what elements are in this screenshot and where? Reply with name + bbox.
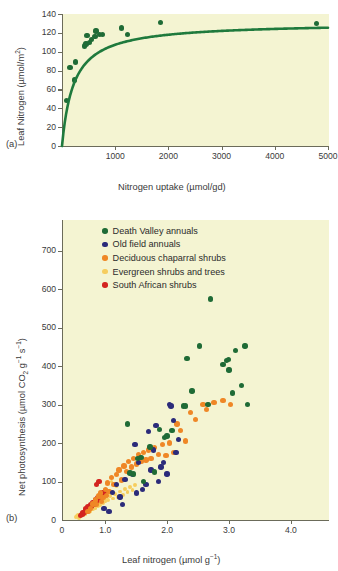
panel-b-data-point (131, 471, 136, 476)
panel-b-y-tick-mark (58, 482, 62, 483)
panel-b-x-tick-label: 2.0 (153, 525, 181, 535)
panel-b-data-point (122, 477, 127, 482)
panel-b-y-tick-mark (58, 328, 62, 329)
legend-marker-icon (102, 242, 108, 248)
legend-item: South African shrubs (102, 278, 226, 292)
panel-a-y-axis-label: Leaf Nitrogen (µmol/m2) (14, 47, 26, 146)
panel-a-fit-curve (0, 0, 338, 196)
panel-b-data-point (117, 494, 122, 499)
panel-b-data-point (125, 421, 130, 426)
legend-label: Old field annuals (113, 239, 181, 249)
figure-container: 020406080100120140 10002000300040005000 … (0, 0, 338, 571)
panel-b-data-point (132, 442, 137, 447)
panel-b-data-point (173, 450, 178, 455)
panel-b-data-point (106, 498, 110, 502)
panel-b-data-point (148, 456, 153, 461)
panel-b-x-tick-label: 1.0 (91, 525, 119, 535)
panel-b-data-point (220, 398, 225, 403)
panel-b-data-point (111, 497, 115, 501)
panel-b-data-point (226, 367, 231, 372)
panel-b-data-point (167, 440, 172, 445)
panel-b-x-tick-mark (105, 520, 106, 524)
legend-label: Deciduous chaparral shrubs (113, 253, 226, 263)
legend-label: Evergreen shrubs and trees (113, 267, 225, 277)
panel-b-data-point (163, 453, 168, 458)
panel-b-data-point (158, 464, 163, 469)
legend-marker-icon (102, 282, 108, 288)
panel-b-data-point (211, 400, 216, 405)
panel-b-data-point (106, 509, 111, 514)
panel-b-data-point (205, 402, 210, 407)
panel-b-x-tick-label: 3.0 (215, 525, 243, 535)
panel-b-x-axis-label: Leaf nitrogen (µmol g−1) (122, 553, 220, 565)
panel-b-x-tick-mark (167, 520, 168, 524)
panel-a-label: (a) (6, 139, 17, 149)
panel-b-x-tick-mark (291, 520, 292, 524)
panel-b-data-point (226, 357, 231, 362)
panel-b-y-tick-mark (58, 251, 62, 252)
legend-marker-icon (102, 228, 108, 234)
legend-label: South African shrubs (113, 280, 197, 290)
legend-item: Deciduous chaparral shrubs (102, 251, 226, 265)
panel-b-y-tick-label: 600 (24, 284, 56, 294)
panel-b-data-point (134, 490, 139, 495)
panel-b-y-axis-label: Net photosynthesis (µmol CO2 g−1 s−1) (15, 338, 29, 496)
panel-b-y-tick-mark (58, 289, 62, 290)
panel-b-label: (b) (6, 513, 17, 523)
panel-b-y-tick-label: 500 (24, 322, 56, 332)
panel-b-data-point (239, 383, 244, 388)
panel-b-x-tick-label: 0 (48, 525, 76, 535)
panel-b-data-point (164, 433, 169, 438)
panel-b-data-point (161, 460, 166, 465)
panel-b-data-point (176, 437, 181, 442)
legend-item: Death Valley annuals (102, 224, 226, 238)
panel-a-x-axis-label: Nitrogen uptake (µmol/gd) (118, 182, 226, 192)
panel-b-x-tick-label: 4.0 (277, 525, 305, 535)
panel-b-y-tick-mark (58, 366, 62, 367)
panel-b-data-point (147, 444, 152, 449)
panel-b-data-point (189, 388, 194, 393)
panel-a: 020406080100120140 10002000300040005000 … (0, 0, 338, 196)
panel-b-data-point (184, 356, 189, 361)
legend-label: Death Valley annuals (113, 226, 198, 236)
panel-b-x-tick-mark (229, 520, 230, 524)
panel-b-data-point (133, 483, 137, 487)
panel-b-data-point (197, 343, 202, 348)
legend-item: Old field annuals (102, 238, 226, 252)
legend-item: Evergreen shrubs and trees (102, 265, 226, 279)
panel-b-y-tick-mark (58, 405, 62, 406)
panel-b: 1002003004005006007000 01.02.03.04.0 Dea… (0, 196, 338, 571)
panel-b-data-point (208, 296, 213, 301)
panel-b-data-point (168, 403, 173, 408)
panel-b-data-point (140, 487, 145, 492)
legend-marker-icon (102, 255, 108, 261)
panel-b-data-point (164, 471, 169, 476)
legend-marker-icon (102, 269, 108, 275)
panel-b-data-point (138, 455, 143, 460)
panel-b-legend: Death Valley annualsOld field annualsDec… (102, 224, 226, 292)
panel-b-y-tick-label: 700 (24, 245, 56, 255)
panel-b-data-point (242, 343, 247, 348)
panel-b-y-tick-label-zero: 0 (24, 515, 56, 525)
panel-b-y-tick-mark (58, 443, 62, 444)
